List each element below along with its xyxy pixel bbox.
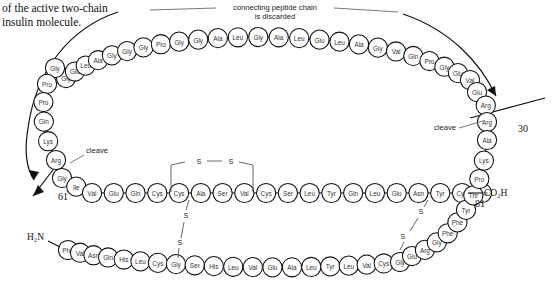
c-terminus-label: CO₂H — [484, 188, 508, 198]
residue-b-chain-10: His — [204, 257, 223, 276]
svg-text:Cys: Cys — [261, 190, 272, 198]
svg-text:Ala: Ala — [354, 41, 364, 48]
svg-text:Arg: Arg — [482, 119, 492, 127]
number-61: 61 — [58, 191, 68, 202]
svg-text:Val: Val — [392, 48, 401, 55]
svg-text:Leu: Leu — [306, 264, 317, 271]
residue-cp-top-13: Gly — [249, 27, 268, 46]
svg-text:Gln: Gln — [103, 254, 113, 261]
svg-text:Pro: Pro — [474, 176, 484, 183]
residue-a-chain-14: Tyr — [322, 183, 341, 202]
svg-text:Val: Val — [76, 250, 85, 257]
svg-text:Pro: Pro — [38, 99, 48, 106]
svg-text:Gly: Gly — [107, 52, 117, 60]
svg-text:Ser: Ser — [190, 262, 201, 269]
svg-text:Ala: Ala — [482, 137, 492, 144]
residue-b-chain-12: Val — [243, 258, 262, 277]
residue-a-chain-17: Glu — [387, 183, 406, 202]
residue-cp-top-18: Ala — [349, 35, 368, 54]
connecting-chain-leader-right — [334, 8, 398, 12]
disulfide-interchain-left: S S — [178, 200, 189, 258]
residue-b-chain-16: Tyr — [321, 257, 340, 276]
residue-a-chain-10: Val — [235, 183, 254, 202]
residue-b-chain-14: Ala — [282, 258, 301, 277]
svg-text:Cys: Cys — [152, 190, 163, 198]
residue-b-chain-29: Lys — [474, 151, 493, 170]
svg-text:Ala: Ala — [274, 34, 284, 41]
number-81: 81 — [475, 198, 485, 209]
svg-text:Gly: Gly — [174, 39, 184, 47]
svg-text:Gly: Gly — [139, 44, 149, 52]
svg-text:Glu: Glu — [392, 190, 402, 197]
residue-cp-top-20: Val — [386, 42, 405, 61]
residue-b-chain-15: Leu — [302, 257, 321, 276]
residue-cp-top-11: Ala — [208, 29, 227, 48]
cleave-label-left: cleave — [86, 146, 108, 155]
svg-text:Ala: Ala — [196, 190, 206, 197]
svg-text:Ala: Ala — [213, 35, 223, 42]
residue-cp-top-12: Leu — [228, 28, 247, 47]
svg-text:Gly: Gly — [50, 65, 60, 73]
svg-text:Gly: Gly — [193, 37, 203, 45]
svg-text:Pro: Pro — [156, 41, 166, 48]
svg-text:Leu: Leu — [135, 258, 146, 265]
svg-text:Leu: Leu — [228, 264, 239, 271]
residue-b-chain-6: Leu — [131, 252, 150, 271]
svg-text:Ser: Ser — [218, 190, 229, 197]
svg-text:Gly: Gly — [253, 34, 263, 42]
n-terminus-label: H₂N — [27, 232, 44, 242]
residue-cp-left-6: Arg — [46, 150, 65, 169]
residue-cp-top-9: Gly — [170, 32, 189, 51]
svg-text:Tyr: Tyr — [326, 263, 336, 271]
residue-a-chain-16: Leu — [365, 183, 384, 202]
svg-text:Val: Val — [248, 264, 257, 271]
cleave-left-pointer — [70, 155, 84, 163]
residue-b-chain-30: Ala — [477, 130, 496, 149]
connecting-chain-leader-left — [150, 8, 216, 10]
sulfur-label-left-2: S — [178, 238, 183, 247]
svg-text:Phe: Phe — [452, 219, 464, 226]
svg-text:Leu: Leu — [343, 263, 354, 270]
svg-text:Leu: Leu — [370, 190, 381, 197]
diagram-canvas: connecting peptide chain is discarded Gl… — [0, 0, 552, 283]
residue-a-chain-3: Val — [82, 183, 101, 202]
svg-text:Leu: Leu — [294, 35, 305, 42]
residue-cp-top-8: Pro — [151, 35, 170, 54]
residue-cp-left-4: Gln — [34, 112, 53, 131]
svg-text:Phe: Phe — [442, 230, 454, 237]
backbone-bonds — [43, 37, 487, 267]
svg-text:Arg: Arg — [481, 102, 491, 110]
residue-b-chain-11: Leu — [224, 257, 243, 276]
svg-text:Glu: Glu — [315, 37, 325, 44]
svg-text:Tyr: Tyr — [462, 207, 472, 215]
svg-text:His: His — [119, 256, 128, 263]
svg-text:Val: Val — [240, 190, 249, 197]
residue-cp-top-10: Gly — [189, 30, 208, 49]
residue-cp-left-3: Pro — [34, 93, 53, 112]
residue-a-chain-9: Ser — [213, 183, 232, 202]
residue-b-chain-13: Glu — [263, 258, 282, 277]
svg-text:Ala: Ala — [287, 264, 297, 271]
residue-a-chain-5: Gln — [126, 183, 145, 202]
left-arrowhead — [29, 170, 39, 180]
residue-a-chain-7: Cys — [169, 183, 188, 202]
svg-text:Gln: Gln — [348, 190, 358, 197]
svg-text:Pro: Pro — [424, 58, 434, 65]
residue-a-chain-6: Cys — [148, 183, 167, 202]
residue-cp-top-15: Leu — [290, 29, 309, 48]
sulfur-label-intra-2: S — [229, 157, 234, 166]
svg-text:Cys: Cys — [378, 260, 389, 268]
svg-text:Gln: Gln — [408, 53, 418, 60]
residue-a-chain-15: Gln — [344, 183, 363, 202]
svg-text:Arg: Arg — [51, 157, 61, 165]
svg-text:Ser: Ser — [283, 190, 294, 197]
sulfur-label-intra-1: S — [197, 157, 202, 166]
svg-text:Cys: Cys — [174, 190, 185, 198]
svg-text:Val: Val — [362, 262, 371, 269]
residue-cp-top-19: Gly — [368, 38, 387, 57]
svg-text:Tyr: Tyr — [327, 190, 337, 198]
cleave-label-right: cleave — [434, 123, 456, 132]
svg-text:Cys: Cys — [152, 260, 163, 268]
svg-text:Gly: Gly — [57, 175, 67, 183]
svg-text:Ala: Ala — [93, 57, 103, 64]
